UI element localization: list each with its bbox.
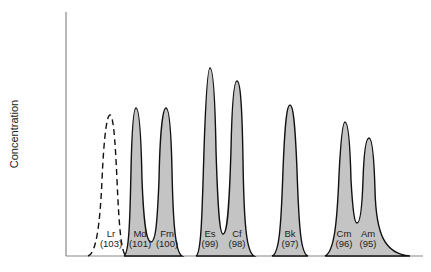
y-axis-label: Concentration <box>8 100 20 169</box>
atomic-number: (101) <box>129 239 151 249</box>
atomic-number: (99) <box>202 239 219 249</box>
peak-label-fm: Fm (100) <box>156 229 178 249</box>
peak-label-md: Md (101) <box>129 229 151 249</box>
peak-label-lr: Lr (103) <box>100 229 122 249</box>
peak-label-bk: Bk (97) <box>282 229 299 249</box>
peak-label-cf: Cf (98) <box>229 229 246 249</box>
atomic-number: (100) <box>156 239 178 249</box>
peak-label-am: Am (95) <box>360 229 377 249</box>
atomic-number: (98) <box>229 239 246 249</box>
atomic-number: (97) <box>282 239 299 249</box>
atomic-number: (95) <box>360 239 377 249</box>
atomic-number: (103) <box>100 239 122 249</box>
peak-label-es: Es (99) <box>202 229 219 249</box>
atomic-number: (96) <box>336 239 353 249</box>
peak-label-cm: Cm (96) <box>336 229 353 249</box>
